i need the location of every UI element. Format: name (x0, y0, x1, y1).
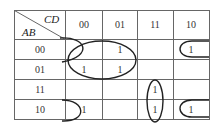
group-corner-bottom-right (180, 100, 209, 117)
row-header-11: 11 (35, 84, 45, 95)
row-variable-label: AB (21, 26, 36, 38)
row-header-00: 00 (35, 44, 45, 55)
cell-r1-c1: 1 (118, 64, 123, 75)
row-header-01: 01 (35, 64, 45, 75)
cell-r1-c0: 1 (82, 64, 87, 75)
karnaugh-map: CD AB 00 01 11 10 00 01 11 10 1 1 1 1 1 … (0, 0, 222, 129)
cell-r3-c0: 1 (82, 104, 87, 115)
group-corner-bottom-left (62, 100, 81, 121)
cell-r2-c2: 1 (153, 84, 158, 95)
col-header-01: 01 (115, 19, 125, 30)
cell-r0-c3: 1 (189, 44, 194, 55)
col-header-10: 10 (186, 19, 196, 30)
cell-r3-c2: 1 (153, 104, 158, 115)
group-corner-top-left (60, 38, 83, 62)
group-corner-top-right (180, 41, 209, 57)
row-header-10: 10 (35, 104, 45, 115)
cell-r3-c3: 1 (189, 104, 194, 115)
col-header-11: 11 (150, 19, 160, 30)
col-variable-label: CD (44, 13, 59, 25)
cell-r0-c1: 1 (118, 44, 123, 55)
col-header-00: 00 (79, 19, 89, 30)
